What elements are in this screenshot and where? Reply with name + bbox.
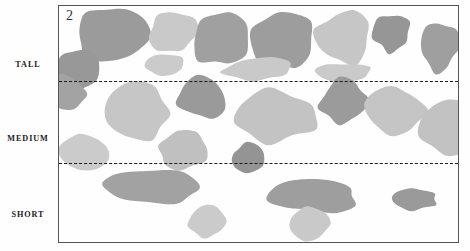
blob-medium-10 bbox=[232, 142, 265, 173]
blob-medium-5 bbox=[318, 77, 371, 126]
blob-medium-9 bbox=[158, 130, 208, 171]
blob-tall-9 bbox=[145, 54, 184, 75]
plot-area: 2 bbox=[58, 5, 459, 243]
blob-short-4 bbox=[187, 205, 226, 239]
blob-medium-4 bbox=[234, 87, 318, 145]
blob-short-1 bbox=[102, 170, 200, 204]
blob-tall-3 bbox=[194, 12, 248, 63]
divider-tall-medium bbox=[59, 81, 458, 82]
divider-medium-short bbox=[59, 163, 458, 164]
blob-tall-7 bbox=[421, 23, 458, 74]
blob-short-3 bbox=[392, 188, 437, 211]
category-label-short: SHORT bbox=[0, 210, 56, 219]
blob-layer bbox=[59, 6, 458, 242]
figure-root: TALL MEDIUM SHORT 2 bbox=[0, 0, 470, 251]
category-label-medium: MEDIUM bbox=[0, 134, 56, 143]
blob-tall-6 bbox=[372, 16, 410, 55]
category-label-tall: TALL bbox=[0, 60, 56, 69]
blob-medium-2 bbox=[105, 81, 171, 141]
blob-tall-5 bbox=[313, 10, 369, 66]
blob-tall-2 bbox=[149, 12, 199, 51]
panel-number-label: 2 bbox=[66, 9, 73, 23]
blob-medium-8 bbox=[59, 134, 109, 171]
